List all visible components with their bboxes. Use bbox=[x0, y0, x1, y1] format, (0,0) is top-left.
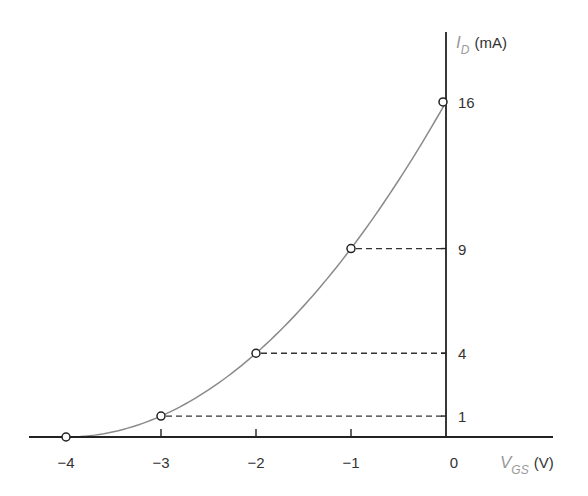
y-axis-label: ID(mA) bbox=[456, 33, 507, 57]
y-tick-label: 9 bbox=[458, 241, 466, 258]
data-point-marker bbox=[157, 412, 165, 420]
data-point-marker bbox=[252, 349, 260, 357]
x-tick-label: 0 bbox=[450, 454, 458, 471]
y-tick-label: 4 bbox=[458, 345, 466, 362]
x-tick-label: −3 bbox=[152, 454, 169, 471]
x-tick-label: −1 bbox=[342, 454, 359, 471]
x-tick-label: −2 bbox=[247, 454, 264, 471]
data-point-marker bbox=[347, 245, 355, 253]
data-point-marker bbox=[62, 433, 70, 441]
y-tick-label: 16 bbox=[458, 94, 475, 111]
transfer-characteristic-chart: −4−3−2−10 14916 ID(mA) VGS(V) bbox=[0, 0, 588, 496]
x-ticks: −4−3−2−10 bbox=[57, 429, 458, 471]
x-axis-label: VGS(V) bbox=[500, 453, 554, 477]
data-markers bbox=[62, 98, 447, 441]
y-tick-label: 1 bbox=[458, 408, 466, 425]
data-point-marker bbox=[439, 98, 447, 106]
transfer-curve bbox=[66, 102, 446, 437]
x-tick-label: −4 bbox=[57, 454, 74, 471]
